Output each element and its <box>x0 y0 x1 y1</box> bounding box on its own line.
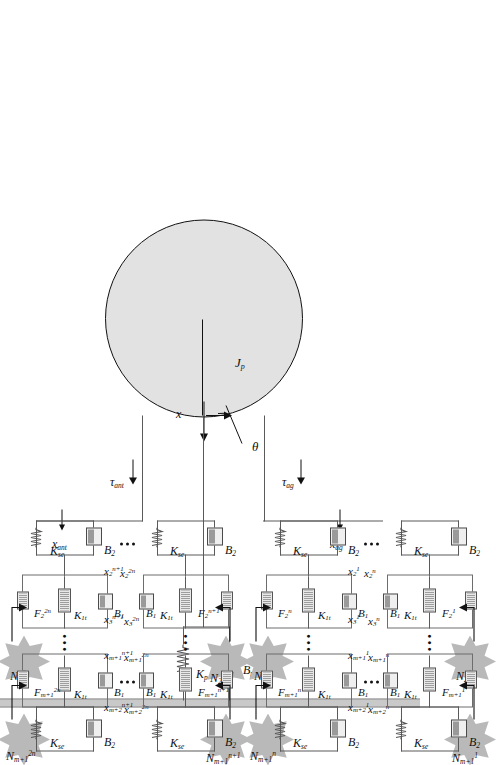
label-rotor-x: x <box>176 407 181 419</box>
agonist-trunk-lead <box>264 415 265 521</box>
g1-unit-a-k1t <box>179 588 192 612</box>
g0-label-b2: B2 <box>104 543 115 557</box>
g3-label-b2: B2 <box>469 543 480 557</box>
g2-label-n-b: Nm+1n <box>250 749 276 763</box>
g3-label-n-b: Nm+11 <box>452 751 478 765</box>
g0-ellipsis: ••• <box>58 631 71 651</box>
g0-x3: x32n <box>124 615 139 628</box>
g0-unit-a-k1t <box>58 588 71 612</box>
g1-wall-b2 <box>207 719 223 737</box>
g1-kse-spring <box>149 527 165 547</box>
g2-unit-a-b1 <box>342 593 357 609</box>
g3-wallbay-right <box>401 706 459 707</box>
g2-label-b2: B2 <box>348 543 359 557</box>
g1-label-b1-b: B1 <box>146 686 156 699</box>
g1-wall-label-b2: B2 <box>225 735 236 749</box>
label-theta: θ <box>252 439 258 452</box>
g2-unit-a-k1t <box>302 588 315 612</box>
g0-star-a-arrow <box>6 595 28 641</box>
g0-wall-label-b2: B2 <box>104 735 115 749</box>
g3-ellipsis: ••• <box>423 631 436 651</box>
g1-label-k1t-b: K1t <box>160 688 173 701</box>
g2-label-kse: Kse <box>293 544 307 558</box>
g1-xm1: xm+1n+1 <box>104 649 133 662</box>
g3-b2-damper <box>451 527 467 545</box>
g0-bay-left <box>36 520 94 521</box>
g0-star-b-arrow <box>6 673 28 719</box>
g2-label-k1t-b: K1t <box>318 688 331 701</box>
g1-label-n-b: Nm+1n+1 <box>206 751 241 765</box>
g2-bay-mid-lead <box>308 554 309 576</box>
g0-label-n-b: Nm+12n <box>6 749 36 763</box>
g3-label-b1-b: B1 <box>390 686 400 699</box>
g2-wallbay-right <box>280 706 338 707</box>
g0-wall-label-kse: Kse <box>50 736 64 750</box>
g2-label-k1t-a: K1t <box>318 609 331 622</box>
g2-unit-b-k1t <box>302 667 315 691</box>
g3-star-b-arrow <box>456 673 480 719</box>
g0-wallbay-left <box>36 750 94 751</box>
label-inertia: Jp <box>235 355 245 370</box>
g3-wallbay-left <box>401 750 459 751</box>
agonist-group-ellipsis <box>364 542 382 545</box>
g3-xm2: xm+21 <box>348 701 369 714</box>
g1-wallbay-left <box>157 750 215 751</box>
label-tau-ant: τant <box>110 475 124 489</box>
label-tau-ag: τag <box>282 475 294 489</box>
g1-bay-mid-lead <box>185 554 186 576</box>
g3-label-f-a: F21 <box>442 607 456 620</box>
g2-x2: x2n <box>364 567 376 580</box>
g0-unit-b-b1 <box>98 672 113 688</box>
g3-star-a-arrow <box>456 595 480 641</box>
antagonist-group-ellipsis <box>120 542 138 545</box>
g3-kse-spring <box>393 527 409 547</box>
g0-wall-kse <box>28 719 44 739</box>
g0-wall-b2 <box>86 719 102 737</box>
g0-label-k1t-b: K1t <box>74 688 87 701</box>
g3-label-k1t-a: K1t <box>404 609 417 622</box>
g1-star-a-arrow <box>212 595 236 641</box>
g1-label-kse: Kse <box>170 544 184 558</box>
g1-unit-b-k1t <box>179 667 192 691</box>
g3-wall-label-b2: B2 <box>469 735 480 749</box>
g3-bay-left <box>401 520 459 521</box>
g3-wall-label-kse: Kse <box>414 736 428 750</box>
g0-b2-damper <box>86 527 102 545</box>
g2-wall-label-kse: Kse <box>293 736 307 750</box>
g2-unit-b-b1 <box>342 672 357 688</box>
g0-label-f-a: F22n <box>34 607 51 620</box>
g3-unit-b-k1t <box>423 667 436 691</box>
g1-bay-left <box>157 520 215 521</box>
agonist-unit-ellipsis <box>364 680 382 683</box>
g3-xm1: xm+11 <box>348 649 369 662</box>
g3-x2: x21 <box>348 565 360 578</box>
g2-kse-spring <box>272 527 288 547</box>
antagonist-unit-ellipsis <box>120 680 138 683</box>
g2-star-b-arrow <box>250 673 272 719</box>
g2-wall-kse <box>272 719 288 739</box>
tau-ant-arrow <box>128 459 138 485</box>
g1-x3: x3n+1 <box>104 613 124 626</box>
g1-wallbay-right <box>157 706 215 707</box>
g1-label-b2: B2 <box>225 543 236 557</box>
g3-bay-right <box>401 554 459 555</box>
g2-ellipsis: ••• <box>302 631 315 651</box>
g1-wall-kse <box>149 719 165 739</box>
g3-label-k1t-b: K1t <box>404 688 417 701</box>
g3-label-b1-a: B1 <box>390 607 400 620</box>
g0-label-b1-b: B1 <box>114 686 124 699</box>
g1-label-k1t-a: K1t <box>160 609 173 622</box>
g2-wall-b2 <box>330 719 346 737</box>
g1-star-b-arrow <box>212 673 236 719</box>
g1-b2-damper <box>207 527 223 545</box>
g0-unit-a-b1 <box>98 593 113 609</box>
g2-star-a-arrow <box>250 595 272 641</box>
g0-kse-spring <box>28 527 44 547</box>
g3-bay-mid-lead <box>429 554 430 576</box>
g2-label-f-b: Fm+1n <box>278 686 301 699</box>
g0-bay-right <box>36 554 94 555</box>
g3-x3: x31 <box>348 613 360 626</box>
g1-ellipsis: ••• <box>179 631 192 651</box>
